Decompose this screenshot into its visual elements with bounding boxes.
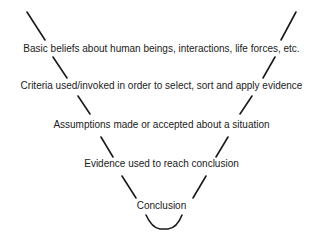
funnel-right-segment-3 — [240, 96, 252, 114]
funnel-left-segment-4 — [101, 137, 113, 157]
funnel-left-segment-2 — [53, 57, 67, 78]
level-3-label: Assumptions made or accepted about a sit… — [0, 119, 323, 131]
funnel-right-segment-5 — [193, 176, 206, 198]
funnel-bottom-cup — [146, 215, 182, 229]
level-5-label: Conclusion — [0, 200, 323, 212]
funnel-right-segment-4 — [216, 137, 228, 157]
funnel-right-segment-1 — [281, 12, 296, 40]
funnel-right-segment-2 — [263, 57, 275, 78]
funnel-left-segment-1 — [27, 12, 45, 40]
level-1-label: Basic beliefs about human beings, intera… — [0, 43, 323, 55]
funnel-left-segment-3 — [78, 96, 90, 114]
level-4-label: Evidence used to reach conclusion — [0, 158, 323, 170]
level-2-label: Criteria used/invoked in order to select… — [0, 80, 323, 92]
funnel-left-segment-5 — [122, 176, 136, 198]
